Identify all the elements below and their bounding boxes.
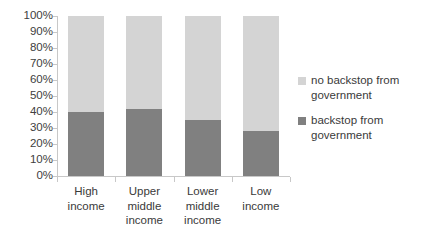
y-axis-tick-label: 90% (0, 26, 53, 38)
y-axis-tick-label: 40% (0, 106, 53, 118)
y-axis: 100%90%80%70%60%50%40%30%20%10%0% (0, 0, 53, 237)
legend-entry[interactable]: backstop fromgovernment (298, 113, 427, 142)
x-axis-category-label: Lowincome (232, 184, 290, 213)
category-label-line: income (232, 199, 290, 214)
category-label-line: income (115, 213, 173, 228)
legend-label-line: no backstop from (311, 73, 427, 88)
bar-column[interactable] (185, 16, 221, 176)
x-axis-tick-mark (232, 177, 233, 182)
x-axis-tick-mark (290, 177, 291, 182)
category-label-line: income (57, 199, 115, 214)
plot-area (57, 16, 290, 176)
x-axis-category-labels: HighincomeUppermiddleincomeLowermiddlein… (57, 184, 290, 237)
legend-label-line: backstop from (311, 113, 427, 128)
bar-segment-backstop[interactable] (68, 112, 104, 176)
x-axis-category-label: Lowermiddleincome (174, 184, 232, 228)
category-label-line: middle (115, 199, 173, 214)
y-axis-tick-label: 80% (0, 42, 53, 54)
y-axis-tick-label: 0% (0, 170, 53, 182)
category-label-line: Low (232, 184, 290, 199)
y-axis-tick-label: 50% (0, 90, 53, 102)
legend-entry[interactable]: no backstop fromgovernment (298, 73, 427, 102)
x-axis-category-label: Uppermiddleincome (115, 184, 173, 228)
y-axis-tick-label: 70% (0, 58, 53, 70)
legend-label-line: government (311, 128, 427, 143)
y-axis-tick-label: 10% (0, 154, 53, 166)
y-axis-tick-mark (53, 144, 57, 145)
category-label-line: High (57, 184, 115, 199)
legend-label-line: government (311, 88, 427, 103)
y-axis-tick-mark (53, 32, 57, 33)
stacked-bar-chart: 100%90%80%70%60%50%40%30%20%10%0% Highin… (0, 0, 427, 237)
y-axis-tick-mark (53, 96, 57, 97)
bar-segment-backstop[interactable] (185, 120, 221, 176)
bar-segment-no-backstop[interactable] (185, 16, 221, 120)
bar-column[interactable] (126, 16, 162, 176)
y-axis-tick-mark (53, 48, 57, 49)
y-axis-tick-label: 60% (0, 74, 53, 86)
bar-column[interactable] (243, 16, 279, 176)
y-axis-tick-mark (53, 160, 57, 161)
bar-segment-no-backstop[interactable] (126, 16, 162, 109)
y-axis-tick-mark (53, 64, 57, 65)
chart-legend: no backstop fromgovernmentbackstop fromg… (298, 73, 427, 153)
category-label-line: Lower (174, 184, 232, 199)
y-axis-tick-mark (53, 16, 57, 17)
y-axis-tick-label: 20% (0, 138, 53, 150)
legend-swatch-icon (298, 77, 306, 85)
y-axis-tick-mark (53, 128, 57, 129)
y-axis-tick-mark (53, 80, 57, 81)
x-axis-tick-mark (115, 177, 116, 182)
x-axis-tick-mark (174, 177, 175, 182)
bar-segment-no-backstop[interactable] (68, 16, 104, 112)
bar-segment-backstop[interactable] (243, 131, 279, 176)
bar-segment-backstop[interactable] (126, 109, 162, 176)
bar-column[interactable] (68, 16, 104, 176)
bar-segment-no-backstop[interactable] (243, 16, 279, 131)
x-axis-tick-mark (57, 177, 58, 182)
legend-swatch-icon (298, 117, 306, 125)
category-label-line: middle (174, 199, 232, 214)
x-axis-category-label: Highincome (57, 184, 115, 213)
category-label-line: Upper (115, 184, 173, 199)
y-axis-tick-label: 30% (0, 122, 53, 134)
y-axis-tick-mark (53, 112, 57, 113)
y-axis-tick-label: 100% (0, 10, 53, 22)
category-label-line: income (174, 213, 232, 228)
